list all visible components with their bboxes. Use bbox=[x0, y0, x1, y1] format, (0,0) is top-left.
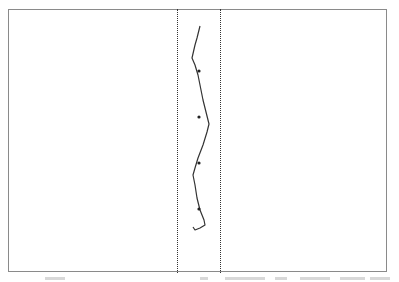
caption-fragment bbox=[300, 277, 330, 280]
trace-line bbox=[192, 26, 209, 230]
clipped-caption bbox=[0, 275, 399, 282]
caption-fragment bbox=[275, 277, 287, 280]
marker-dot bbox=[197, 115, 200, 118]
marker-dot bbox=[197, 207, 200, 210]
caption-fragment bbox=[370, 277, 390, 280]
caption-fragment bbox=[340, 277, 365, 280]
marker-dot bbox=[197, 161, 200, 164]
caption-fragment bbox=[45, 277, 65, 280]
caption-fragment bbox=[225, 277, 265, 280]
caption-fragment bbox=[200, 277, 208, 280]
trace-diagram bbox=[0, 0, 399, 282]
marker-dot bbox=[197, 69, 200, 72]
marker-group bbox=[197, 69, 200, 210]
